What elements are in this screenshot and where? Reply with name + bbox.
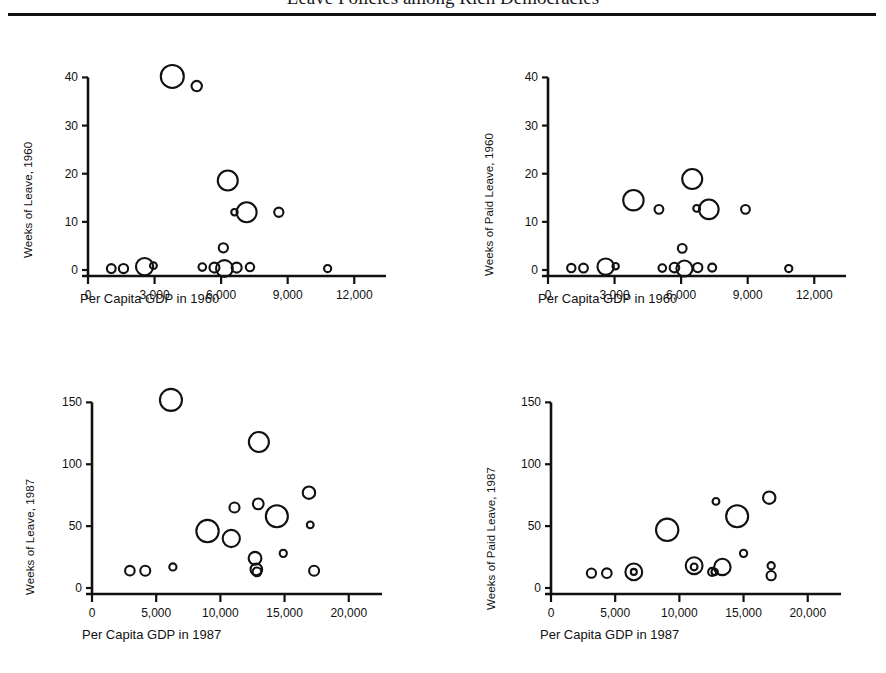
data-bubble [196,520,218,542]
data-bubble [324,265,331,272]
data-bubble [237,202,257,222]
y-tick-label: 0 [531,263,538,277]
x-axis-label-bottom-right: Per Capita GDP in 1987 [540,627,679,642]
data-bubble [785,265,792,272]
y-tick-label: 0 [71,263,78,277]
y-tick-label: 0 [75,581,82,595]
plot-area-bottom-left: 05010015005,00010,00015,00020,000 [0,355,443,640]
chart-panel-bottom-left: 05010015005,00010,00015,00020,000 Weeks … [0,355,443,673]
data-bubble [219,243,228,252]
x-tick-label: 12,000 [796,288,833,302]
chart-panel-top-right: 01020304003,0006,0009,00012,000 Weeks of… [443,18,886,328]
x-axis-label-top-left: Per Capita GDP in 1960 [80,291,219,306]
data-bubble [303,487,315,499]
scatter-svg-top-left: 01020304003,0006,0009,00012,000 [0,18,443,308]
x-tick-label: 10,000 [661,606,698,620]
data-bubble [266,505,288,527]
data-bubble [125,566,135,576]
scatter-svg-bottom-right: 05010015005,00010,00015,00020,000 [443,355,886,640]
data-bubble [587,569,596,578]
y-axis-label-top-left: Weeks of Leave, 1960 [22,142,34,258]
running-head: Leave Policies among Rich Democracies [0,0,886,14]
y-axis-label-top-right: Weeks of Paid Leave, 1960 [483,133,495,276]
data-bubble [107,264,116,273]
data-bubble [726,505,748,527]
data-bubble [658,264,666,272]
chart-panel-bottom-right: 05010015005,00010,00015,00020,000 Weeks … [443,355,886,673]
plot-area-bottom-right: 05010015005,00010,00015,00020,000 [443,355,886,640]
y-tick-label: 10 [525,215,539,229]
data-bubble [192,81,202,91]
x-tick-label: 20,000 [789,606,826,620]
chart-panel-top-left: 01020304003,0006,0009,00012,000 Weeks of… [0,18,443,328]
y-tick-label: 30 [65,119,79,133]
data-bubble [693,205,700,212]
data-bubble [246,263,254,271]
x-tick-label: 5,000 [141,606,171,620]
data-bubble [612,263,618,269]
data-bubble [741,205,750,214]
data-bubble [140,566,150,576]
data-bubble [682,169,702,189]
data-bubble [678,244,687,253]
data-bubble [307,521,314,528]
x-tick-label: 9,000 [273,288,303,302]
data-bubble [579,264,588,273]
data-bubble [229,503,239,513]
x-tick-label: 12,000 [336,288,373,302]
y-tick-label: 50 [528,519,542,533]
header-divider [8,13,876,16]
data-bubble [231,209,237,215]
data-bubble [625,564,642,581]
x-axis-label-top-right: Per Capita GDP in 1960 [538,291,677,306]
data-bubble [198,263,206,271]
data-bubble [253,498,264,509]
x-tick-label: 0 [548,606,555,620]
x-axis-label-bottom-left: Per Capita GDP in 1987 [82,627,221,642]
data-bubble [699,200,719,220]
data-bubble [597,258,613,274]
data-bubble [161,65,184,88]
y-tick-label: 50 [69,519,83,533]
data-bubble [708,264,716,272]
data-bubble [169,563,176,570]
scatter-svg-top-right: 01020304003,0006,0009,00012,000 [443,18,886,308]
running-head-text: Leave Policies among Rich Democracies [0,0,886,9]
y-tick-label: 100 [62,457,82,471]
data-bubble [274,208,283,217]
y-tick-label: 30 [525,119,539,133]
data-bubble [655,205,664,214]
data-bubble [119,264,128,273]
data-bubble [686,557,703,574]
data-bubble [656,519,678,541]
y-tick-label: 40 [65,70,79,84]
y-tick-label: 20 [525,167,539,181]
data-bubble [602,568,612,578]
data-bubble [740,550,747,557]
data-bubble [691,564,698,571]
x-tick-label: 10,000 [202,606,239,620]
scatter-svg-bottom-left: 05010015005,00010,00015,00020,000 [0,355,443,640]
y-tick-label: 10 [65,215,79,229]
x-tick-label: 5,000 [600,606,630,620]
x-tick-label: 0 [89,606,96,620]
x-tick-label: 9,000 [733,288,763,302]
data-bubble [160,389,182,411]
y-tick-label: 150 [62,395,82,409]
x-tick-label: 15,000 [266,606,303,620]
data-bubble [768,562,775,569]
data-bubble [309,566,319,576]
y-tick-label: 0 [534,581,541,595]
y-axis-label-bottom-left: Weeks of Leave, 1987 [24,479,36,595]
data-bubble [280,550,287,557]
data-bubble [223,530,240,547]
plot-area-top-left: 01020304003,0006,0009,00012,000 [0,18,443,308]
y-tick-label: 20 [65,167,79,181]
data-bubble [713,498,720,505]
x-tick-label: 20,000 [330,606,367,620]
x-tick-label: 15,000 [725,606,762,620]
data-bubble [249,432,269,452]
data-bubble [631,569,637,575]
y-tick-label: 40 [525,70,539,84]
data-bubble [623,190,643,210]
